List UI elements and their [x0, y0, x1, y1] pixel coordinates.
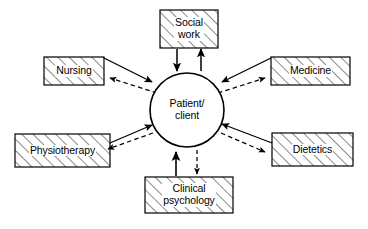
node-box-clinical-psychology[interactable] [145, 177, 233, 213]
node-box-nursing[interactable] [44, 57, 104, 85]
patient-client-circle[interactable] [150, 73, 224, 147]
arrow-dietetics-to-patient [222, 124, 272, 143]
node-box-dietetics[interactable] [272, 133, 353, 166]
diagram-svg [0, 0, 368, 229]
node-box-medicine[interactable] [271, 57, 350, 85]
node-box-social-work[interactable] [160, 10, 218, 48]
arrow-patient-to-dietetics [221, 133, 265, 152]
diagram-canvas: Patient/ client Social work Nursing Medi… [0, 0, 368, 229]
node-box-physiotherapy[interactable] [15, 134, 110, 167]
